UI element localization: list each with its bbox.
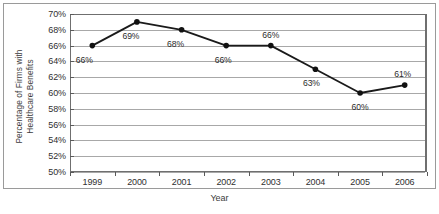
y-axis-tick-label: 64% [30,56,66,66]
y-axis-tick-labels: 70%68%66%64%62%60%58%56%54%52%50% [26,14,66,172]
y-axis-tick-label: 62% [30,72,66,82]
y-axis-tick-label: 50% [30,167,66,177]
data-point-label: 63% [291,78,331,88]
y-axis-tick-mark [70,46,74,47]
gridline [71,77,425,78]
x-axis-tick-label: 2002 [203,177,249,187]
x-axis-tick-mark [159,172,160,176]
y-axis-tick-mark [70,109,74,110]
x-axis-tick-mark [293,172,294,176]
data-point-label: 69% [111,31,151,41]
y-axis-tick-mark [70,77,74,78]
y-axis-tick-mark [70,14,74,15]
x-axis-tick-label: 2005 [337,177,383,187]
y-axis-tick-mark [70,125,74,126]
x-axis-tick-label: 2001 [159,177,205,187]
y-axis-tick-label: 56% [30,120,66,130]
x-axis-tick-mark [204,172,205,176]
x-axis-tick-label: 2004 [292,177,338,187]
x-axis-tick-mark [70,172,71,176]
x-axis-tick-mark [338,172,339,176]
gridline [71,46,425,47]
chart-figure: Percentage of Firms with Healthcare Bene… [0,0,439,214]
data-point-label: 66% [64,55,104,65]
gridline [71,156,425,157]
x-axis-tick-label: 1999 [69,177,115,187]
x-axis-title: Year [0,193,439,203]
gridline [71,93,425,94]
data-point-label: 61% [383,69,423,79]
data-point-label: 66% [203,55,243,65]
x-axis-tick-mark [427,172,428,176]
y-axis-tick-mark [70,156,74,157]
x-axis-tick-label: 2006 [382,177,428,187]
x-axis-tick-mark [382,172,383,176]
gridline [71,125,425,126]
y-axis-tick-label: 68% [30,25,66,35]
y-axis-tick-mark [70,93,74,94]
y-axis-tick-mark [70,140,74,141]
y-axis-tick-label: 66% [30,41,66,51]
data-point-label: 66% [251,30,291,40]
y-axis-tick-label: 58% [30,104,66,114]
gridline [71,140,425,141]
x-axis-tick-mark [115,172,116,176]
x-axis-tick-label: 2003 [248,177,294,187]
x-axis-tick-mark [249,172,250,176]
y-axis-tick-label: 60% [30,88,66,98]
y-axis-tick-label: 70% [30,9,66,19]
y-axis-tick-mark [70,30,74,31]
data-point-label: 60% [340,102,380,112]
gridline [71,61,425,62]
x-axis-tick-label: 2000 [114,177,160,187]
y-axis-tick-label: 52% [30,151,66,161]
data-point-label: 68% [156,39,196,49]
y-axis-tick-label: 54% [30,135,66,145]
